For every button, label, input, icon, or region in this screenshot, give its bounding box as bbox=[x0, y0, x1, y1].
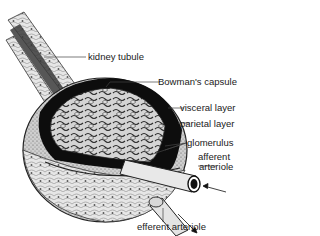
label-efferent-arteriole: efferent arteriole bbox=[137, 222, 206, 232]
label-visceral-layer: visceral layer bbox=[180, 103, 235, 113]
label-bowmans-capsule: Bowman's capsule bbox=[158, 77, 237, 87]
label-glomerulus: glomerulus bbox=[187, 138, 233, 148]
label-afferent-line2: arteriole bbox=[199, 162, 233, 172]
label-kidney-tubule: kidney tubule bbox=[88, 52, 144, 62]
label-parietal-layer: parietal layer bbox=[180, 119, 234, 129]
